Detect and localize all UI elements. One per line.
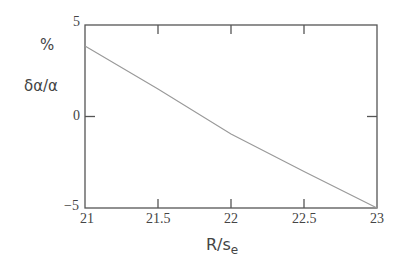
x-tick-label-22: 22 [224,211,238,227]
y-tick-label-0: 0 [73,108,80,124]
x-axis-label: R/se [206,235,238,257]
x-tick-label-22-5: 22.5 [292,211,317,227]
y-tick-label-5: 5 [73,14,80,30]
data-line [85,46,377,208]
plot-frame [85,25,377,208]
axis-ticks [85,25,377,208]
chart-canvas [0,0,405,276]
y-axis-unit: % [40,36,54,54]
x-tick-label-21: 21 [80,211,94,227]
x-tick-label-21-5: 21.5 [146,211,171,227]
y-axis-label: δα/α [24,77,58,95]
x-tick-label-23: 23 [370,211,384,227]
y-tick-label-minus5: −5 [64,198,79,214]
